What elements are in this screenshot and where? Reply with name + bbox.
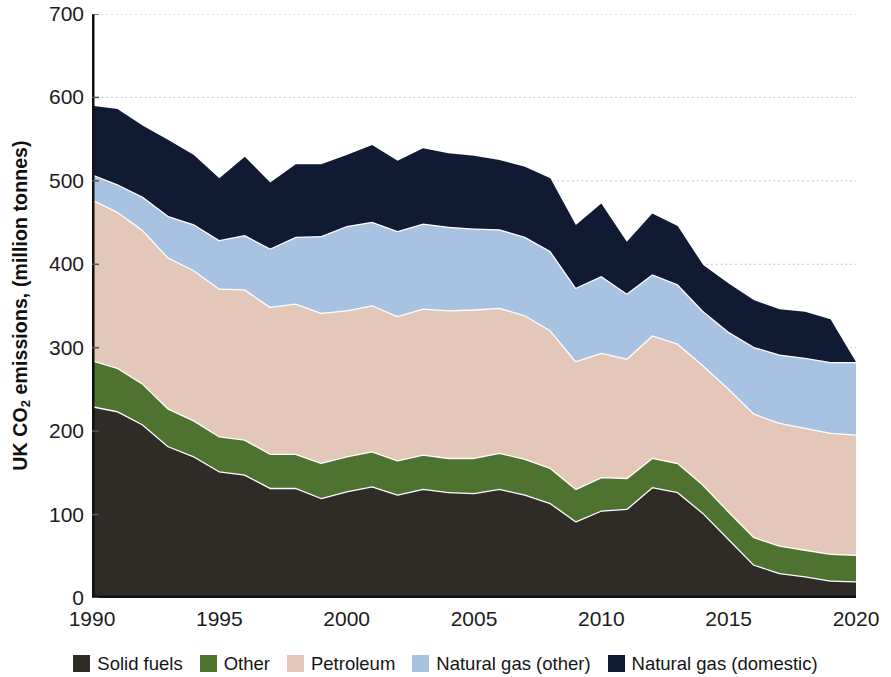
x-tick-label-1990: 1990: [69, 607, 116, 631]
legend-swatch-icon: [73, 655, 90, 672]
legend-swatch-icon: [608, 655, 625, 672]
y-tick-label-700: 700: [34, 2, 84, 26]
stacked-area-chart: [92, 14, 856, 598]
legend-item-0[interactable]: Solid fuels: [73, 653, 182, 675]
legend-label: Natural gas (other): [436, 653, 590, 675]
legend-label: Other: [224, 653, 270, 675]
y-tick-label-600: 600: [34, 85, 84, 109]
legend-label: Natural gas (domestic): [632, 653, 818, 675]
legend-swatch-icon: [412, 655, 429, 672]
y-tick-label-400: 400: [34, 252, 84, 276]
x-tick-label-2010: 2010: [578, 607, 625, 631]
x-tick-label-2005: 2005: [451, 607, 498, 631]
y-axis-tick-labels: 7006005004003002001000: [22, 0, 84, 677]
legend-swatch-icon: [200, 655, 217, 672]
y-tick-label-100: 100: [34, 503, 84, 527]
chart-figure: UK CO2 emissions, (million tonnes) 70060…: [0, 0, 891, 677]
y-tick-label-300: 300: [34, 336, 84, 360]
legend-label: Solid fuels: [97, 653, 182, 675]
legend-item-2[interactable]: Petroleum: [287, 653, 395, 675]
y-tick-label-200: 200: [34, 419, 84, 443]
x-tick-label-2020: 2020: [833, 607, 880, 631]
legend-item-1[interactable]: Other: [200, 653, 270, 675]
x-tick-label-1995: 1995: [196, 607, 243, 631]
legend-label: Petroleum: [311, 653, 395, 675]
x-tick-label-2015: 2015: [705, 607, 752, 631]
plot-area: [92, 14, 856, 598]
chart-legend: Solid fuelsOtherPetroleumNatural gas (ot…: [0, 650, 891, 677]
legend-item-3[interactable]: Natural gas (other): [412, 653, 590, 675]
y-tick-label-500: 500: [34, 169, 84, 193]
legend-swatch-icon: [287, 655, 304, 672]
legend-item-4[interactable]: Natural gas (domestic): [608, 653, 818, 675]
x-tick-label-2000: 2000: [323, 607, 370, 631]
x-axis-tick-labels: 1990199520002005201020152020: [0, 607, 891, 641]
